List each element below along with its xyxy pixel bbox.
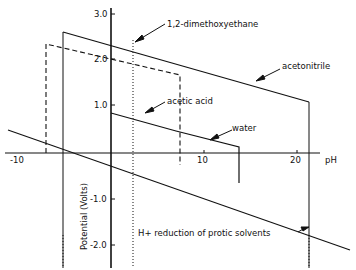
acetonitrile-line xyxy=(63,32,309,102)
x-tick-m10: -10 xyxy=(10,155,24,165)
leader-arrows xyxy=(135,24,309,232)
y-tick-m2: -2.0 xyxy=(90,240,107,250)
label-acetonitrile: acetonitrile xyxy=(282,61,330,71)
y-tick-2: 2.0 xyxy=(94,54,108,64)
chart: 1,2-dimethoxyethane acetonitrile acetic … xyxy=(0,0,356,270)
y-tick-3: 3.0 xyxy=(94,9,108,19)
y-tick-1: 1.0 xyxy=(94,100,108,110)
x-axis-label: pH xyxy=(325,155,337,165)
label-hplus: H+ reduction of protic solvents xyxy=(138,228,271,238)
y-ticks xyxy=(111,14,297,245)
x-tick-10: 10 xyxy=(197,155,208,165)
y-tick-m1: -1.0 xyxy=(90,194,107,204)
x-tick-20: 20 xyxy=(290,155,301,165)
label-dme: 1,2-dimethoxyethane xyxy=(167,19,258,29)
label-water: water xyxy=(232,123,257,133)
y-axis-label: Potential (Volts) xyxy=(79,183,89,250)
label-acetic-acid: acetic acid xyxy=(167,96,213,106)
